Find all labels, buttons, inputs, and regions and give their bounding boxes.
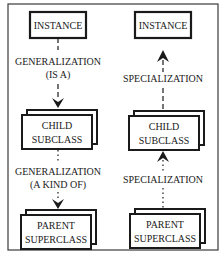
left-parent-line1: PARENT <box>37 220 75 231</box>
right-arrow1-label: SPECIALIZATION <box>123 73 203 84</box>
right-parent-line2: SUPERCLASS <box>134 233 196 244</box>
left-child-line2: SUBCLASS <box>32 134 83 145</box>
left-child-subclass-box: CHILD SUBCLASS <box>22 110 97 149</box>
left-arrow2-label-line1: GENERALIZATION <box>15 166 101 177</box>
generalization-specialization-diagram: INSTANCE GENERALIZATION (IS A) CHILD SUB… <box>0 0 222 257</box>
right-child-subclass-box: CHILD SUBCLASS <box>129 111 204 150</box>
left-instance-label: INSTANCE <box>34 20 83 31</box>
left-arrow2-label-line2: (A KIND OF) <box>30 179 86 191</box>
right-arrow2-label: SPECIALIZATION <box>123 174 203 185</box>
left-column: INSTANCE GENERALIZATION (IS A) CHILD SUB… <box>15 12 101 249</box>
right-child-line2: SUBCLASS <box>139 135 190 146</box>
left-parent-superclass-box: PARENT SUPERCLASS <box>21 210 96 249</box>
right-instance-label: INSTANCE <box>139 20 188 31</box>
left-child-line1: CHILD <box>42 120 73 131</box>
left-parent-line2: SUPERCLASS <box>25 234 87 245</box>
right-instance-box: INSTANCE <box>135 12 191 38</box>
left-arrow1-label-line1: GENERALIZATION <box>15 56 101 67</box>
arrowhead-down-icon <box>52 199 64 209</box>
arrowhead-down-icon <box>52 98 64 108</box>
left-arrow1-label-line2: (IS A) <box>46 69 71 81</box>
right-child-line1: CHILD <box>149 121 180 132</box>
left-instance-box: INSTANCE <box>30 12 86 38</box>
right-parent-superclass-box: PARENT SUPERCLASS <box>130 209 205 248</box>
right-parent-line1: PARENT <box>146 219 184 230</box>
right-column: INSTANCE SPECIALIZATION CHILD SUBCLASS S… <box>123 12 205 248</box>
